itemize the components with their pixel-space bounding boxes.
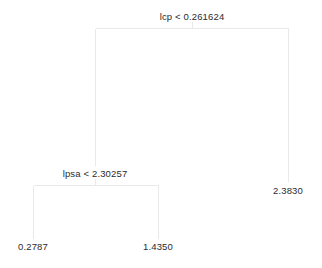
leaf-node-left-right-value: 1.4350	[143, 241, 173, 252]
leaf-node-right-value: 2.3830	[273, 185, 303, 196]
leaf-node-left-left-value: 0.2787	[18, 241, 48, 252]
tree-branches	[0, 0, 322, 268]
split-node-root-label: lcp < 0.261624	[160, 11, 225, 22]
split-node-left-label: lpsa < 2.30257	[63, 168, 128, 179]
decision-tree-plot: lcp < 0.261624 lpsa < 2.30257 0.2787 1.4…	[0, 0, 322, 268]
